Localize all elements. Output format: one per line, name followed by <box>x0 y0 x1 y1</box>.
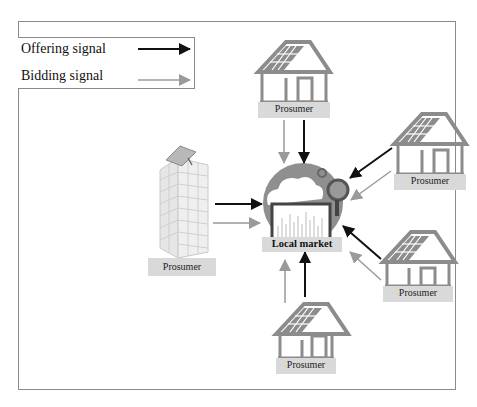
solar-building-icon <box>160 146 208 258</box>
arrow-bidding-upper-right <box>351 171 391 200</box>
prosumer-label-lower-right: Prosumer <box>383 286 453 302</box>
arrow-offering-lower-right <box>343 226 381 259</box>
prosumer-label-top: Prosumer <box>258 102 330 118</box>
local-market-label: Local market <box>262 237 342 252</box>
solar-house-icon-upper-right <box>394 114 466 174</box>
solar-house-icon-top <box>258 42 330 102</box>
solar-house-icon-lower-right <box>383 232 455 286</box>
solar-house-icon-bottom <box>276 304 348 358</box>
arrow-offering-upper-right <box>350 148 392 178</box>
local-market-icon <box>263 163 348 243</box>
prosumer-label-building: Prosumer <box>148 258 216 276</box>
prosumer-label-bottom: Prosumer <box>276 358 336 374</box>
prosumer-label-upper-right: Prosumer <box>394 174 466 190</box>
